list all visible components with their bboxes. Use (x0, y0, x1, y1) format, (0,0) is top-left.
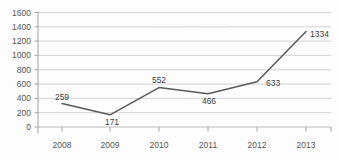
y-tick-label: 1600 (12, 8, 31, 18)
y-tick-label: 600 (17, 79, 31, 89)
y-tick-label: 1000 (12, 50, 31, 60)
y-tick-label: 0 (26, 122, 31, 132)
data-label-2011: 466 (202, 96, 216, 106)
data-label-2009: 171 (105, 117, 119, 127)
chart-canvas: 1600 1400 1200 1000 800 600 400 200 0 25… (0, 0, 339, 160)
x-tick-label: 2011 (199, 140, 218, 150)
data-label-2010: 552 (152, 75, 166, 85)
chart-background (0, 0, 339, 160)
x-tick-label: 2008 (53, 140, 72, 150)
line-chart: 1600 1400 1200 1000 800 600 400 200 0 25… (0, 0, 339, 160)
x-tick-label: 2013 (297, 140, 316, 150)
x-tick-label: 2010 (150, 140, 169, 150)
y-tick-label: 800 (17, 65, 31, 75)
data-label-2012: 633 (266, 78, 280, 88)
data-label-2013: 1334 (310, 29, 329, 39)
y-tick-label: 1200 (12, 36, 31, 46)
y-tick-label: 200 (17, 108, 31, 118)
y-tick-label: 400 (17, 93, 31, 103)
y-tick-label: 1400 (12, 22, 31, 32)
x-tick-label: 2012 (248, 140, 267, 150)
x-tick-label: 2009 (101, 140, 120, 150)
data-label-2008: 259 (55, 92, 69, 102)
